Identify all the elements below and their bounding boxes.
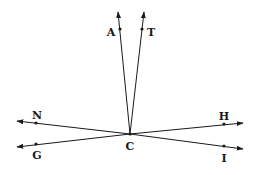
ray-CH: [130, 123, 243, 134]
label-A: A: [106, 26, 116, 39]
ray-CN: [17, 121, 130, 134]
point-I-dot: [222, 144, 225, 147]
label-G: G: [32, 149, 41, 162]
label-N: N: [32, 109, 42, 122]
label-C: C: [126, 140, 135, 153]
point-G-dot: [34, 142, 37, 145]
label-T: T: [147, 26, 156, 39]
ray-CI: [130, 134, 243, 149]
point-A-dot: [118, 27, 121, 30]
vertex-C-dot: [128, 132, 131, 135]
ray-CG: [17, 134, 130, 147]
point-T-dot: [140, 27, 143, 30]
label-H: H: [219, 110, 229, 123]
angle-diagram: A T N G H I C: [0, 0, 254, 175]
label-I: I: [221, 152, 226, 165]
